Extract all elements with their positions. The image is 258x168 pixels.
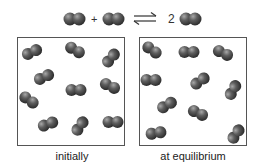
diatomic-molecule-icon <box>36 115 60 133</box>
diatomic-molecule-icon <box>140 39 164 61</box>
diatomic-molecule-icon <box>223 78 244 102</box>
diatomic-molecule-icon <box>145 125 168 140</box>
diatomic-molecule-icon <box>141 74 162 86</box>
equilibrium-state-panel <box>139 37 247 146</box>
diatomic-molecule-icon <box>155 95 179 116</box>
diatomic-molecule-icon <box>17 89 41 111</box>
equilibrium-arrows-icon <box>133 12 157 30</box>
diatomic-molecule-icon <box>179 46 200 58</box>
diatomic-molecule-icon <box>100 46 123 70</box>
product-coefficient: 2 <box>168 10 175 28</box>
diatomic-molecule-icon <box>66 84 87 96</box>
initial-state-panel <box>17 37 125 146</box>
diatomic-molecule-icon <box>63 40 87 61</box>
diatomic-molecule-icon <box>225 122 247 146</box>
diatomic-molecule-icon <box>98 76 122 96</box>
initial-caption: initially <box>17 150 127 162</box>
diatomic-molecule-icon <box>188 70 212 92</box>
diatomic-molecule-icon <box>186 103 210 123</box>
molecules-initial <box>18 38 126 147</box>
plus-sign: + <box>91 10 97 28</box>
chemical-equation: + 2 <box>0 10 258 28</box>
diatomic-molecule-icon <box>69 114 91 138</box>
diatomic-molecule-icon <box>211 43 235 63</box>
diatomic-molecule-icon <box>103 116 124 128</box>
diatomic-molecule-icon <box>32 67 56 87</box>
molecules-equilibrium <box>140 38 248 147</box>
equilibrium-caption: at equilibrium <box>138 150 248 162</box>
diatomic-molecule-icon <box>20 42 44 62</box>
